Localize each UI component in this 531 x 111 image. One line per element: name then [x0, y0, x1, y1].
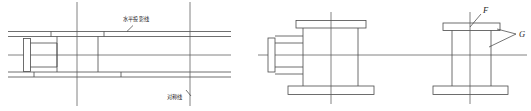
right-view-bottom-flange — [433, 86, 508, 95]
leader-horizontal-projection — [127, 26, 133, 32]
label-symmetry-line: 对称线 — [167, 93, 183, 101]
right-view: F G — [433, 5, 525, 104]
leader-label-g-upper — [497, 29, 516, 34]
engineering-drawing-canvas: 水平投影线 对称线 — [0, 0, 531, 111]
label-g: G — [519, 29, 525, 39]
label-f: F — [482, 5, 489, 15]
left-view-end-flange — [24, 39, 31, 72]
label-horizontal-projection-line: 水平投影线 — [123, 15, 149, 23]
drawing-svg: 水平投影线 对称线 — [0, 0, 531, 111]
middle-view-end-flange — [268, 38, 275, 72]
leader-label-g-lower — [489, 34, 516, 47]
left-view: 水平投影线 对称线 — [8, 2, 231, 106]
right-view-top-flange — [443, 23, 500, 31]
